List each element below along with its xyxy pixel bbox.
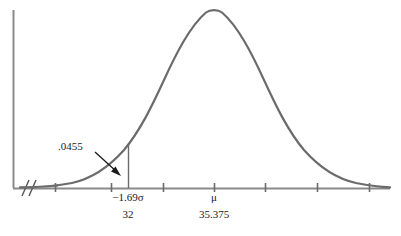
normal-distribution-figure: .0455 −1.69σ 32 μ 35.375 xyxy=(0,0,401,236)
zscore-axis-label: −1.69σ xyxy=(112,192,143,203)
normal-curve xyxy=(20,10,390,187)
distribution-plot-svg xyxy=(0,0,401,236)
mean-axis-label: μ xyxy=(211,192,217,203)
mean-xvalue-label: 35.375 xyxy=(199,209,229,220)
zscore-xvalue-label: 32 xyxy=(123,209,134,220)
probability-label: .0455 xyxy=(58,141,83,152)
